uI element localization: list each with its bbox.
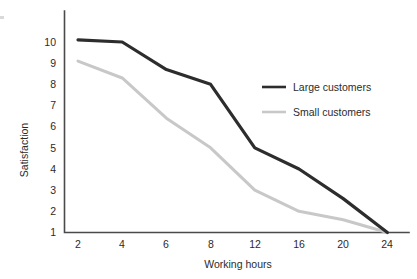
- legend-label-large: Large customers: [293, 81, 371, 93]
- y-tick-label: 3: [50, 184, 56, 196]
- x-tick-label: 24: [381, 238, 393, 250]
- x-tick-label: 20: [337, 238, 349, 250]
- y-tick-label: 8: [50, 78, 56, 90]
- y-tick-label: 4: [50, 163, 56, 175]
- edge-artifact-mark: [0, 16, 4, 19]
- y-tick-label: 1: [50, 226, 56, 238]
- y-tick-label: 2: [50, 205, 56, 217]
- x-tick-label: 6: [163, 238, 169, 250]
- y-tick-label: 6: [50, 120, 56, 132]
- y-tick-label: 9: [50, 57, 56, 69]
- legend-label-small: Small customers: [293, 106, 371, 118]
- x-tick-label: 16: [293, 238, 305, 250]
- y-tick-label: 10: [44, 36, 56, 48]
- y-tick-label: 7: [50, 99, 56, 111]
- x-tick-label: 4: [119, 238, 125, 250]
- x-tick-label: 8: [208, 238, 214, 250]
- y-axis-title: Satisfaction: [18, 123, 30, 177]
- line-chart: 10 9 8 7 6 5 4 3 2 1 2 4 6 8 12 16 20 24…: [0, 0, 417, 279]
- y-tick-label: 5: [50, 142, 56, 154]
- x-tick-label: 12: [249, 238, 261, 250]
- chart-figure: 10 9 8 7 6 5 4 3 2 1 2 4 6 8 12 16 20 24…: [0, 0, 417, 279]
- x-tick-label: 2: [75, 238, 81, 250]
- x-axis-title: Working hours: [204, 258, 272, 270]
